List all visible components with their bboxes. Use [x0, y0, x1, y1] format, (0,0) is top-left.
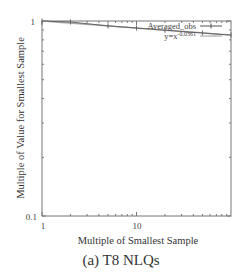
x-axis-label: Multiple of Smallest Sample [78, 235, 199, 246]
chart-svg: 1 0.1 1 10 Multiple of Smallest Sample M… [0, 0, 242, 250]
y-tick-label-1: 1 [31, 17, 36, 27]
x-axis-ticks [42, 21, 227, 216]
y-tick-label-0.1: 0.1 [26, 212, 37, 222]
y-axis-ticks [42, 21, 231, 216]
x-tick-label-10: 10 [133, 221, 143, 231]
legend: Averaged_obs y=x-0.0361 [148, 21, 222, 41]
figure-caption: (a) T8 NLQs [0, 252, 242, 269]
plot-frame [42, 21, 231, 216]
legend-label-fit: y=x-0.0361 [164, 31, 196, 41]
legend-label-averaged-obs: Averaged_obs [148, 21, 196, 31]
y-axis-label: Multiple of Value for Smallest Sample [15, 37, 26, 199]
x-tick-label-1: 1 [41, 221, 46, 231]
